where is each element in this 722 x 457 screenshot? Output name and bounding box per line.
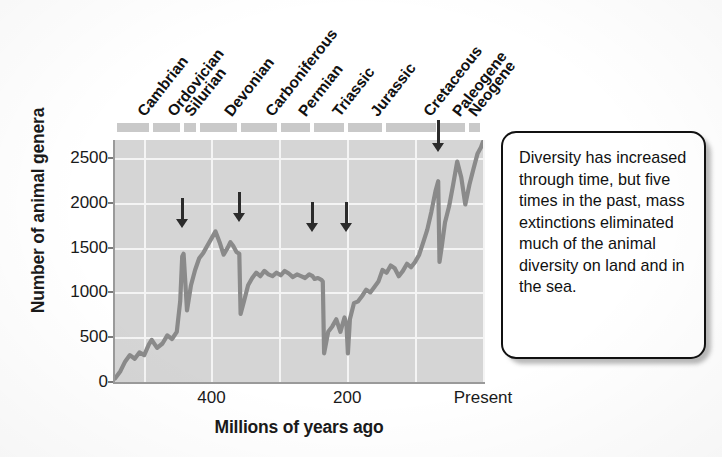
extinction-arrow-icon bbox=[340, 202, 353, 232]
callout-box: Diversity has increased through time, bu… bbox=[501, 131, 706, 359]
arrow-shaft bbox=[311, 202, 314, 224]
period-bar-permian bbox=[281, 123, 310, 132]
period-bar-devonian bbox=[200, 123, 237, 132]
arrow-shaft bbox=[181, 198, 184, 220]
y-axis: 05001000150020002500 Number of animal ge… bbox=[0, 0, 108, 457]
period-label-jurassic: Jurassic bbox=[366, 59, 419, 120]
period-bar-cretaceous bbox=[386, 123, 436, 132]
y-axis-tick-label: 500 bbox=[4, 328, 108, 345]
x-axis-tick-label: 200 bbox=[333, 388, 361, 408]
arrow-head bbox=[340, 223, 352, 232]
extinction-arrow-icon bbox=[306, 202, 319, 232]
period-bar-neogene bbox=[469, 123, 481, 132]
y-axis-tick-label: 0 bbox=[4, 373, 108, 390]
x-axis-tick-label: 400 bbox=[197, 388, 225, 408]
x-axis-tick-label: Present bbox=[454, 388, 513, 408]
y-axis-tick-label: 1000 bbox=[4, 283, 108, 300]
diversity-curve bbox=[115, 140, 483, 382]
arrow-head bbox=[233, 213, 245, 222]
arrow-shaft bbox=[437, 120, 440, 144]
arrow-head bbox=[306, 223, 318, 232]
y-axis-tick-mark bbox=[108, 336, 113, 338]
period-bar-carboniferous bbox=[241, 123, 278, 132]
y-axis-line bbox=[113, 140, 115, 384]
extinction-arrow-icon bbox=[233, 192, 246, 222]
y-axis-title: Number of animal genera bbox=[28, 81, 49, 341]
figure-canvas: CambrianOrdovicianSilurianDevonianCarbon… bbox=[0, 0, 722, 457]
y-axis-tick-mark bbox=[108, 291, 113, 293]
gridline-vertical bbox=[483, 140, 485, 382]
y-axis-tick-mark bbox=[108, 202, 113, 204]
y-axis-tick-mark bbox=[108, 381, 113, 383]
y-axis-tick-label: 2500 bbox=[4, 149, 108, 166]
period-bar-silurian bbox=[184, 123, 196, 132]
x-axis-line bbox=[113, 382, 485, 384]
arrow-head bbox=[176, 219, 188, 228]
y-axis-tick-mark bbox=[108, 247, 113, 249]
arrow-shaft bbox=[345, 202, 348, 224]
callout-text: Diversity has increased through time, bu… bbox=[519, 147, 691, 298]
extinction-arrow-icon bbox=[432, 120, 445, 152]
period-bar-jurassic bbox=[348, 123, 382, 132]
arrow-shaft bbox=[238, 192, 241, 214]
y-axis-tick-mark bbox=[108, 157, 113, 159]
period-bar-triassic bbox=[314, 123, 344, 132]
extinction-arrow-icon bbox=[176, 198, 189, 228]
y-axis-tick-label: 2000 bbox=[4, 194, 108, 211]
x-axis-title: Millions of years ago bbox=[115, 417, 483, 438]
arrow-head bbox=[432, 143, 444, 152]
period-bar-ordovician bbox=[153, 123, 180, 132]
period-bar-cambrian bbox=[117, 123, 150, 132]
y-axis-tick-label: 1500 bbox=[4, 239, 108, 256]
